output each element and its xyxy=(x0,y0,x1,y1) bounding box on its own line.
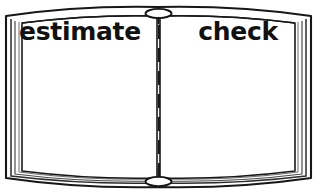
right-page-writing-area[interactable] xyxy=(166,50,294,168)
open-book-illustration: estimate check xyxy=(0,0,317,194)
left-page-heading: estimate xyxy=(0,19,160,44)
left-page-writing-area[interactable] xyxy=(24,50,156,168)
right-page-heading: check xyxy=(162,19,314,44)
